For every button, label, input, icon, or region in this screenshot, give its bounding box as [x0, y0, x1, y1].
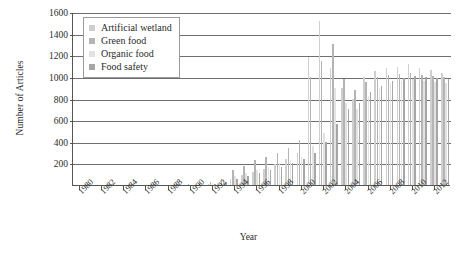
- bar-group: [408, 12, 417, 185]
- bar: [370, 92, 372, 185]
- bar-group: [419, 12, 428, 185]
- legend-item: Green food: [89, 34, 172, 47]
- bar-group: [363, 12, 372, 185]
- bar: [381, 86, 383, 185]
- bar-group: [241, 12, 250, 185]
- bar-group: [197, 12, 206, 185]
- bar-group: [319, 12, 328, 185]
- chart-legend: Artificial wetlandGreen foodOrganic food…: [83, 17, 180, 78]
- bar-group: [308, 12, 317, 185]
- bar: [448, 79, 450, 185]
- x-axis-title: Year: [0, 232, 461, 242]
- legend-label: Green food: [101, 34, 146, 47]
- plot-area: 2004006008001000120014001600 19801982198…: [72, 13, 450, 186]
- bar-group: [441, 12, 450, 185]
- legend-label: Food safety: [101, 60, 148, 73]
- bar-group: [397, 12, 406, 185]
- bar-group: [263, 12, 272, 185]
- y-tick-label: 1000: [49, 73, 73, 83]
- bar-group: [341, 12, 350, 185]
- bar-group: [285, 12, 294, 185]
- legend-item: Organic food: [89, 47, 172, 60]
- bar-group: [252, 12, 261, 185]
- bar: [392, 81, 394, 185]
- bar-group: [74, 12, 83, 185]
- bar-group: [374, 12, 383, 185]
- bar-group: [430, 12, 439, 185]
- bar: [348, 109, 350, 185]
- bar-group: [352, 12, 361, 185]
- bar: [325, 142, 327, 185]
- legend-swatch-icon: [89, 38, 95, 44]
- bar: [359, 103, 361, 185]
- bar-group: [208, 12, 217, 185]
- chart-figure: Number of Articles 200400600800100012001…: [0, 0, 461, 256]
- bar-group: [274, 12, 283, 185]
- y-tick-label: 1600: [49, 8, 73, 18]
- bar-group: [297, 12, 306, 185]
- bar-group: [185, 12, 194, 185]
- legend-label: Artificial wetland: [101, 21, 172, 34]
- bar: [425, 77, 427, 185]
- y-tick-label: 800: [54, 95, 73, 105]
- legend-item: Artificial wetland: [89, 21, 172, 34]
- bar: [336, 124, 338, 185]
- bar: [436, 78, 438, 185]
- legend-label: Organic food: [101, 47, 154, 60]
- y-tick-label: 200: [54, 159, 73, 169]
- y-tick-label: 1200: [49, 51, 73, 61]
- y-tick-label: 400: [54, 138, 73, 148]
- y-tick-label: 600: [54, 116, 73, 126]
- legend-swatch-icon: [89, 25, 95, 31]
- bar-group: [330, 12, 339, 185]
- bar-group: [230, 12, 239, 185]
- bar-group: [219, 12, 228, 185]
- legend-item: Food safety: [89, 60, 172, 73]
- bar: [403, 78, 405, 185]
- legend-swatch-icon: [89, 64, 95, 70]
- legend-swatch-icon: [89, 51, 95, 57]
- bar: [188, 184, 190, 185]
- bar: [414, 76, 416, 185]
- y-tick-label: 1400: [49, 30, 73, 40]
- bar-group: [386, 12, 395, 185]
